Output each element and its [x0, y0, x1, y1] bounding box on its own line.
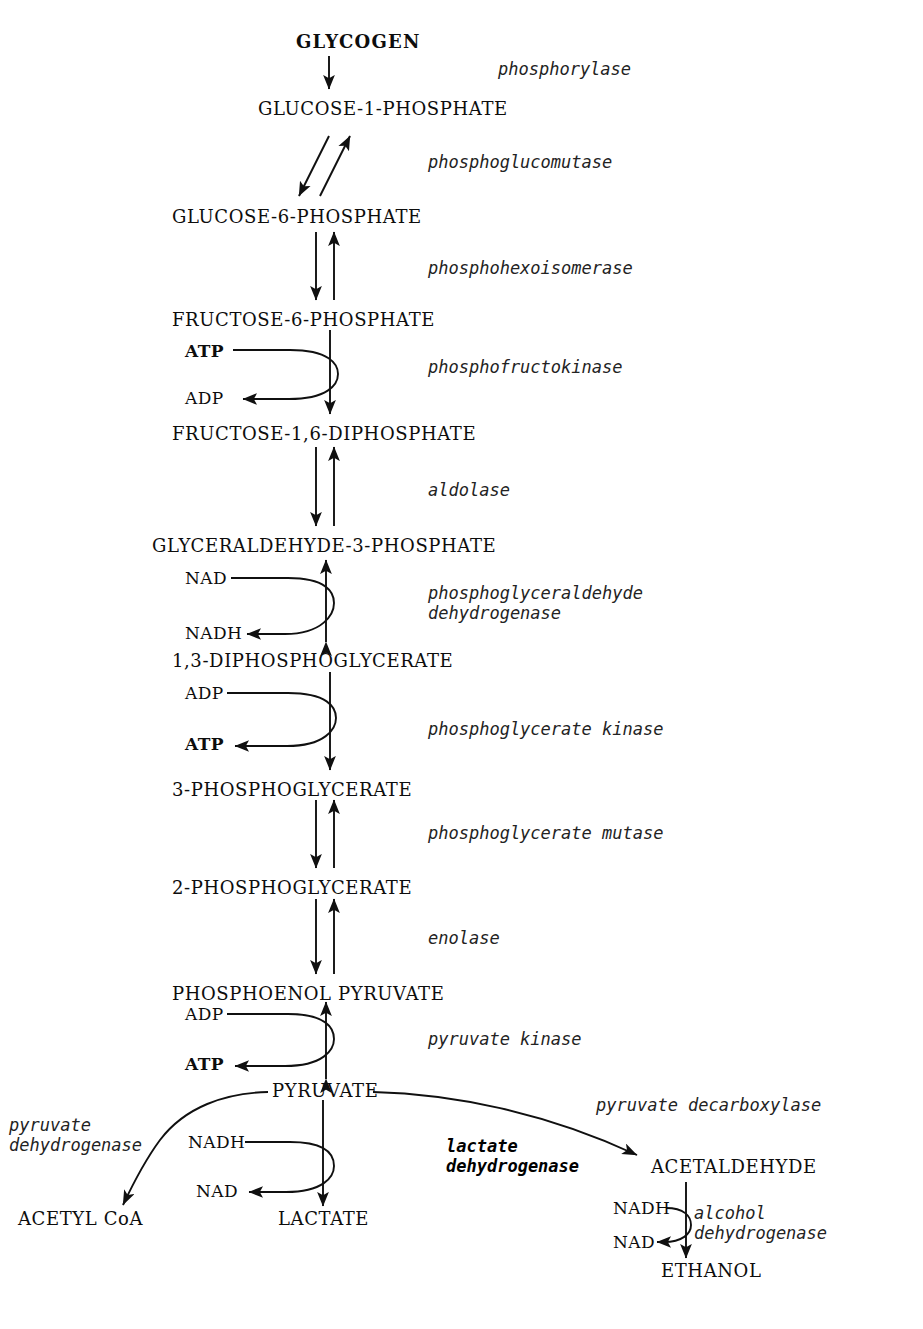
curve-nadh-to-nad-ldh	[245, 1142, 334, 1192]
metabolite-g6p: GLUCOSE-6-PHOSPHATE	[172, 208, 422, 226]
enzyme-enolase: enolase	[428, 928, 500, 948]
enzyme-pyruvate-kinase: pyruvate kinase	[428, 1029, 582, 1049]
metabolite-acetyl-coa: ACETYL CoA	[18, 1210, 143, 1228]
metabolite-f6p: FRUCTOSE-6-PHOSPHATE	[172, 311, 435, 329]
enzyme-phosphoglucomutase: phosphoglucomutase	[428, 152, 612, 172]
metabolite-g1p: GLUCOSE-1-PHOSPHATE	[258, 100, 508, 118]
metabolite-pg2: 2-PHOSPHOGLYCERATE	[172, 879, 412, 897]
curve-adp-to-atp-pk	[227, 1014, 334, 1066]
curve-atp-to-adp-pfk	[233, 350, 338, 399]
metabolite-glycogen: GLYCOGEN	[296, 33, 421, 51]
metabolite-pyruvate: PYRUVATE	[272, 1082, 378, 1100]
metabolite-ethanol: ETHANOL	[661, 1262, 762, 1280]
enzyme-phosphofructokinase: phosphofructokinase	[428, 357, 622, 377]
enzyme-phosphorylase: phosphorylase	[498, 59, 631, 79]
metabolite-pg3: 3-PHOSPHOGLYCERATE	[172, 781, 412, 799]
enzyme-pyruvate-dehydrogenase: pyruvate dehydrogenase	[9, 1115, 142, 1156]
glycolysis-pathway-diagram: GLYCOGEN GLUCOSE-1-PHOSPHATE GLUCOSE-6-P…	[0, 0, 923, 1329]
enzyme-pyruvate-decarboxylase: pyruvate decarboxylase	[596, 1095, 821, 1115]
enzyme-aldolase: aldolase	[428, 480, 510, 500]
cofactor-nadh-adh: NADH	[613, 1200, 670, 1217]
cofactor-nad-ldh: NAD	[196, 1183, 238, 1200]
cofactor-adp-pgk: ADP	[185, 685, 224, 702]
cofactor-adp-pk: ADP	[185, 1006, 224, 1023]
curve-adp-to-atp-pgk	[227, 693, 336, 746]
metabolite-fdp: FRUCTOSE-1,6-DIPHOSPHATE	[172, 425, 476, 443]
cofactor-adp-pfk: ADP	[185, 390, 224, 407]
curve-nad-to-nadh-gapdh	[231, 578, 334, 634]
enzyme-phosphoglycerate-kinase: phosphoglycerate kinase	[428, 719, 663, 739]
cofactor-nadh-ldh: NADH	[188, 1134, 245, 1151]
enzyme-phosphohexoisomerase: phosphohexoisomerase	[428, 258, 633, 278]
cofactor-nad-gapdh: NAD	[185, 570, 227, 587]
cofactor-atp-pk: ATP	[185, 1056, 224, 1073]
metabolite-pep: PHOSPHOENOL PYRUVATE	[172, 985, 444, 1003]
metabolite-lactate: LACTATE	[278, 1210, 369, 1228]
enzyme-phosphoglyceraldehyde-dehydrogenase: phosphoglyceraldehyde dehydrogenase	[428, 583, 643, 624]
cofactor-nadh-gapdh: NADH	[185, 625, 242, 642]
enzyme-phosphoglycerate-mutase: phosphoglycerate mutase	[428, 823, 663, 843]
cofactor-nad-adh: NAD	[613, 1234, 655, 1251]
arrow-g1p-to-g6p	[299, 136, 329, 196]
cofactor-atp-pfk: ATP	[185, 343, 224, 360]
arrow-g6p-to-g1p	[320, 136, 350, 196]
enzyme-alcohol-dehydrogenase: alcohol dehydrogenase	[694, 1203, 827, 1244]
metabolite-dpg: 1,3-DIPHOSPHOGLYCERATE	[172, 652, 453, 670]
metabolite-acetaldehyde: ACETALDEHYDE	[651, 1158, 817, 1176]
cofactor-atp-pgk: ATP	[185, 736, 224, 753]
enzyme-lactate-dehydrogenase: lactate dehydrogenase	[446, 1136, 579, 1177]
metabolite-g3p: GLYCERALDEHYDE-3-PHOSPHATE	[152, 537, 496, 555]
